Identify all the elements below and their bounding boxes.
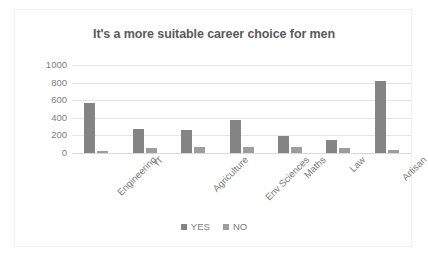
legend-item-yes[interactable]: YES (181, 222, 210, 232)
y-tick-label-600: 600 (33, 95, 67, 105)
x-tick-label: Law (347, 154, 367, 174)
legend-label: YES (191, 222, 210, 232)
bar-group (133, 65, 157, 153)
bar-group (84, 65, 108, 153)
bar-no[interactable] (291, 147, 302, 153)
bar-group (326, 65, 350, 153)
y-axis: 02004006008001000 (33, 65, 67, 153)
legend-label: NO (233, 222, 247, 232)
bar-no[interactable] (97, 151, 108, 153)
x-axis: EngineeringITAgricultureEnv SciencesMath… (72, 154, 411, 216)
bar-yes[interactable] (133, 129, 144, 153)
x-tick-label: Artisan (399, 154, 428, 183)
y-tick-label-200: 200 (33, 130, 67, 140)
y-tick-label-400: 400 (33, 113, 67, 123)
bar-group (181, 65, 205, 153)
bar-yes[interactable] (84, 103, 95, 153)
y-tick-label-1000: 1000 (33, 60, 67, 70)
legend-item-no[interactable]: NO (223, 222, 247, 232)
plot-area (72, 65, 411, 153)
x-tick-label: Agriculture (210, 154, 250, 194)
y-tick-label-800: 800 (33, 78, 67, 88)
bar-group (278, 65, 302, 153)
legend-swatch-icon (223, 224, 229, 230)
bar-group (375, 65, 399, 153)
bar-yes[interactable] (326, 140, 337, 153)
y-tick-label-0: 0 (33, 148, 67, 158)
chart-legend: YESNO (15, 222, 413, 232)
bar-group (230, 65, 254, 153)
bar-no[interactable] (146, 148, 157, 153)
bar-no[interactable] (243, 147, 254, 153)
chart-container: It's a more suitable career choice for m… (14, 9, 412, 247)
bar-no[interactable] (194, 147, 205, 153)
bar-no[interactable] (388, 150, 399, 153)
bar-no[interactable] (339, 148, 350, 153)
bar-yes[interactable] (230, 120, 241, 153)
bar-yes[interactable] (181, 130, 192, 153)
chart-title: It's a more suitable career choice for m… (15, 27, 413, 41)
bar-yes[interactable] (375, 81, 386, 153)
x-tick-label: Env Sciences (262, 154, 310, 202)
legend-swatch-icon (181, 224, 187, 230)
bar-yes[interactable] (278, 136, 289, 153)
